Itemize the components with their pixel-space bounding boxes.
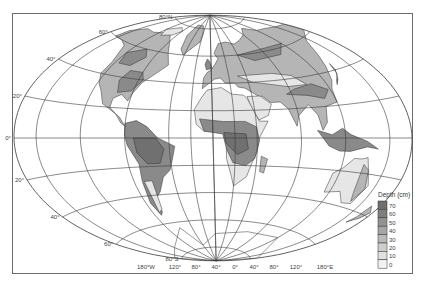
latitude-label: 20° — [13, 93, 23, 99]
legend-swatch — [378, 209, 387, 217]
legend-tick-label: 40 — [389, 228, 396, 234]
legend-title: Depth (cm) — [378, 191, 410, 199]
indonesia — [318, 128, 379, 151]
longitude-label: 120° — [290, 264, 303, 270]
latitude-label: 60° — [104, 241, 114, 247]
legend-swatch — [378, 218, 387, 226]
longitude-label: 40° — [249, 264, 259, 270]
longitude-label: 80° — [269, 264, 279, 270]
legend-tick-label: 60 — [389, 211, 396, 217]
legend-tick-label: 30 — [389, 237, 396, 243]
legend-swatch — [378, 243, 387, 251]
latitude-label: 20° — [15, 177, 25, 183]
legend-tick-label: 20 — [389, 245, 396, 251]
latitude-label: 40° — [46, 56, 56, 62]
arctic-islands — [161, 28, 183, 35]
legend-tick-label: 10 — [389, 253, 396, 259]
legend-swatch — [378, 260, 387, 268]
world-map: 80°N60°40°20°0°20°40°60°80°S 180°W120°80… — [0, 0, 427, 288]
legend-swatch — [378, 226, 387, 234]
longitude-label: 120° — [169, 264, 182, 270]
legend-swatch — [378, 235, 387, 243]
longitude-label: 40° — [211, 264, 221, 270]
longitude-label: 80° — [191, 264, 201, 270]
legend-tick-label: 0 — [389, 262, 393, 268]
south-america — [125, 121, 175, 216]
latitude-label: 80°S — [165, 256, 178, 262]
legend-swatch — [378, 251, 387, 259]
legend-swatch — [378, 201, 387, 209]
legend-tick-label: 50 — [389, 220, 396, 226]
latitude-label: 80°N — [159, 14, 172, 20]
continents — [99, 24, 378, 261]
latitude-label: 40° — [51, 214, 61, 220]
legend-tick-label: 70 — [389, 203, 396, 209]
latitude-label: 60° — [99, 29, 109, 35]
longitude-label: 0° — [232, 264, 238, 270]
latitude-label: 0° — [5, 135, 11, 141]
depth-legend: Depth (cm) 706050403020100 — [378, 191, 410, 268]
longitude-label: 180°W — [137, 264, 155, 270]
longitude-labels: 180°W120°80°40°0°40°80°120°180°E — [137, 264, 333, 270]
longitude-label: 180°E — [317, 264, 333, 270]
madagascar — [260, 156, 268, 173]
